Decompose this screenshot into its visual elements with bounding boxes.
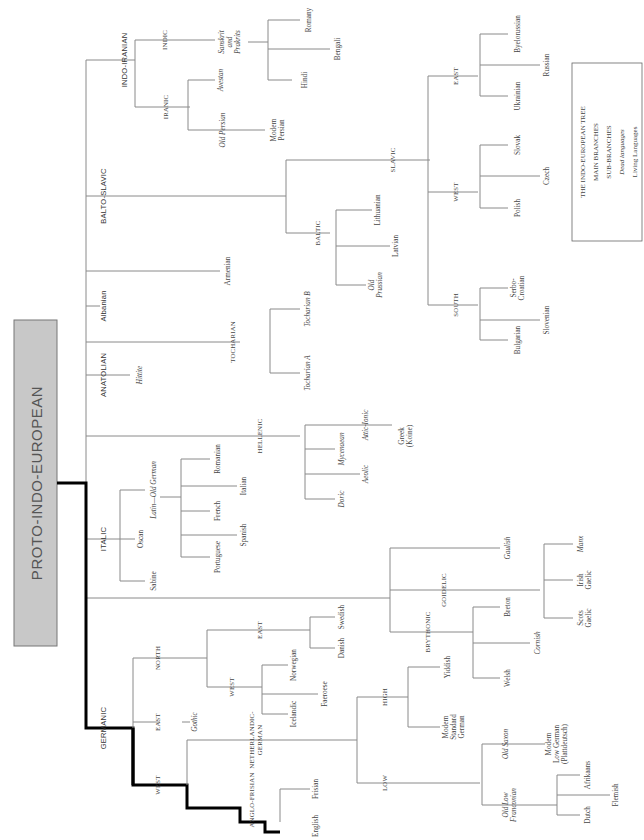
branch-germanic: GERMANIC [99,706,108,749]
celtic-branch [390,544,573,678]
lang-attic-ionic: Attic-Ionic [362,409,370,442]
subbranch-slavic-west: WEST [452,182,459,202]
lang-sanskrit-group: Sanskrit and Prakrits [218,29,242,55]
lang-mycenaean: Mycenaean [338,432,346,467]
lang-bengali: Bengali [334,38,342,60]
subbranch-anglo-frisian: ANGLO-FRISIAN [248,772,255,827]
lang-dutch: Dutch [584,806,592,824]
svg-text:German: German [458,715,466,739]
lang-old-low-franconian: Old Low Franconian [502,788,518,823]
legend-heading: THE INDO-EUROPEAN TREE [579,106,587,198]
branch-italic: ITALIC [99,527,108,552]
lang-latin: Latin—Old German [150,461,158,520]
lang-romany: Romany [305,7,313,32]
lang-old-prussian: Old Prussian [368,272,384,299]
lang-avestan: Avestan [217,68,225,92]
subbranch-indic: INDIC [161,30,168,50]
svg-text:Franconian: Franconian [510,788,518,823]
lang-greek-koine: Greek (Koine) [398,424,414,447]
subbranch-netherlandic-german: NETHERLANDIC- GERMAN [248,711,263,769]
svg-text:Old: Old [368,279,376,290]
subbranch-tocharian: TOCHARIAN [229,321,236,363]
lang-byelorussian: Byelorussian [514,15,522,53]
subbranch-slavic-east: EAST [452,66,459,84]
lang-polish: Polish [514,199,522,217]
lang-english: English [312,815,320,837]
svg-text:Standard: Standard [450,714,458,740]
lang-russian: Russian [543,53,551,76]
lang-slovenian: Slovenian [543,305,551,334]
lang-tocharian-a: Tocharian A [304,355,312,391]
lang-portuguese: Portuguese [214,541,222,573]
subbranch-germanic-west: WEST [154,775,161,795]
lang-modern-low-german: Modern Low German (Plattdeutsch) [545,723,569,764]
subbranch-north-east: EAST [256,620,263,638]
svg-text:Scots: Scots [577,610,585,626]
lang-danish: Danish [338,637,346,658]
subbranch-slavic-south: SOUTH [452,293,459,317]
lang-bulgarian: Bulgarian [514,325,522,354]
lang-spanish: Spanish [240,523,248,546]
lang-faeroese: Faeroese [321,681,329,707]
subbranch-iranic: IRANIC [162,94,169,119]
svg-text:Modern: Modern [442,715,450,738]
page-title: PROTO-INDO-EUROPEAN [28,386,45,580]
lang-doric: Doric [338,490,346,509]
branch-anatolian: ANATOLIAN [99,353,108,397]
svg-text:Old Low: Old Low [502,792,510,817]
balto-slavic-branch [286,34,540,340]
lang-armenian: Armenian [224,256,232,285]
lang-czech: Czech [543,167,551,185]
svg-text:NETHERLANDIC-: NETHERLANDIC- [248,711,255,769]
svg-text:Modern: Modern [545,732,553,755]
hellenic-branch [305,425,392,499]
lang-breton: Breton [504,597,512,617]
subbranch-germanic-east: EAST [154,712,161,730]
svg-text:and: and [226,36,234,47]
lang-french: French [214,501,222,521]
subbranch-high: HIGH [381,688,388,706]
branch-balto-slavic: BALTO-SLAVIC [99,168,108,224]
lang-frisian: Frisian [312,779,320,799]
branch-indo-iranian: INDO-IRANIAN [120,33,129,88]
subbranch-goidelic: GOIDELIC [440,573,447,607]
lang-old-persian: Old Persian [219,112,227,147]
lang-serbo-croatian: Serbo- Croatian [510,275,526,300]
svg-text:(Plattdeutsch): (Plattdeutsch) [561,723,569,764]
svg-text:Irish: Irish [577,573,585,587]
lang-gaulish: Gaulish [504,536,512,559]
svg-text:Prakrits: Prakrits [234,30,242,55]
legend-main-branches: MAIN BRANCHES [592,123,600,181]
lang-aeolic: Aeolic [362,464,370,484]
subbranch-slavic: SLAVIC [389,147,396,172]
svg-text:Low German: Low German [553,725,561,764]
subbranch-north-west: WEST [228,677,235,697]
svg-text:Greek: Greek [398,427,406,445]
lang-swedish: Swedish [338,604,346,629]
indo-european-tree-diagram: PROTO-INDO-EUROPEAN INDO-IRANIAN INDIC [0,0,644,840]
legend-dead-languages: Dead languages [618,129,626,176]
lang-yiddish: Yiddish [444,655,452,678]
lang-sabine: Sabine [150,571,158,591]
lang-manx: Manx [577,535,585,553]
lang-tocharian-b: Tocharian B [304,291,312,327]
svg-text:Serbo-: Serbo- [510,278,518,298]
svg-text:Persian: Persian [278,119,286,141]
lang-hindi: Hindi [301,72,309,88]
lang-oscan: Oscan [137,530,145,548]
legend-sub-branches: SUB-BRANCHES [605,125,613,178]
branch-albanian: Albanian [99,290,108,321]
svg-text:Gaelic: Gaelic [585,609,593,628]
lang-hittite: Hittite [136,365,144,385]
lang-afrikaans: Afrikaans [584,761,592,790]
subbranch-baltic: BALTIC [314,220,321,245]
svg-text:Croatian: Croatian [518,275,526,300]
svg-text:Modern: Modern [270,118,278,141]
lang-norwegian: Norwegian [290,649,298,681]
svg-text:Prussian: Prussian [376,272,384,299]
lang-latvian: Latvian [392,235,400,257]
svg-text:GERMAN: GERMAN [256,725,263,756]
lang-flemish: Flemish [612,783,620,807]
lang-old-saxon: Old Saxon [502,729,510,760]
lang-modern-standard-german: Modern Standard German [442,714,466,740]
